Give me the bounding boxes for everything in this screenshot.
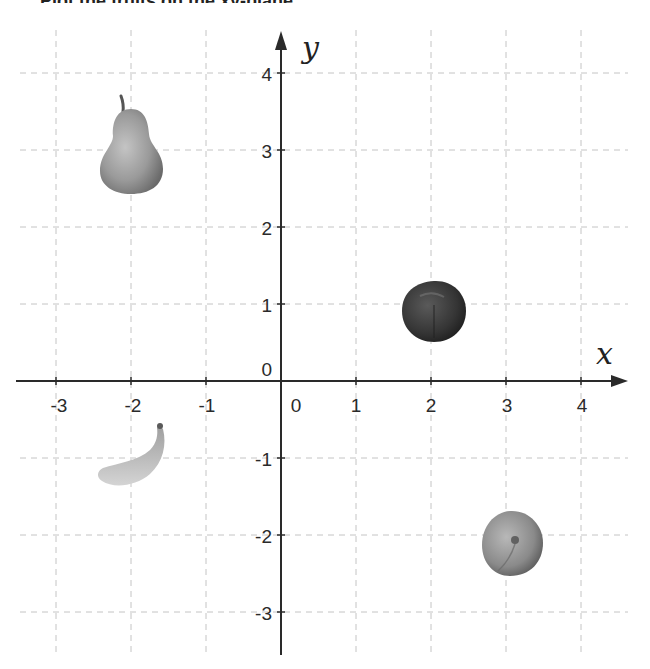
- y-tick-label: 2: [261, 218, 272, 239]
- y-tick-label: 4: [261, 64, 272, 85]
- x-axis-arrow-icon: [611, 375, 628, 387]
- x-tick-label: -1: [199, 395, 216, 416]
- banana-icon: [98, 423, 165, 485]
- peach-icon: [482, 511, 543, 576]
- x-tick-label: 3: [502, 395, 513, 416]
- origin-label: 0: [261, 359, 272, 380]
- y-tick-label: -1: [255, 449, 272, 470]
- y-tick-label: 3: [261, 141, 272, 162]
- x-tick-label: 0: [291, 395, 302, 416]
- x-tick-label: 1: [351, 395, 362, 416]
- plum-icon: [402, 281, 466, 342]
- y-axis-label: y: [300, 30, 320, 65]
- pear-icon: [100, 96, 163, 194]
- coordinate-plane: Plot the fruits on the xy-plane: [0, 0, 650, 669]
- y-axis-arrow-icon: [275, 31, 287, 50]
- y-tick-label: -3: [255, 603, 272, 624]
- x-tick-label: 4: [577, 395, 588, 416]
- x-axis-label: x: [596, 336, 613, 371]
- x-tick-label: 2: [426, 395, 437, 416]
- x-tick-label: -3: [51, 395, 68, 416]
- y-tick-label: 1: [261, 295, 272, 316]
- x-tick-label: -2: [125, 395, 142, 416]
- plane-svg: -3 -2 -1 0 1 2 3 4 4 3 2 1 0 -1 -2 -3 x …: [0, 0, 650, 669]
- cut-off-heading: Plot the fruits on the xy-plane: [40, 0, 293, 3]
- y-tick-label: -2: [255, 526, 272, 547]
- x-tick-labels: -3 -2 -1 0 1 2 3 4: [51, 395, 588, 416]
- y-tick-labels: 4 3 2 1 0 -1 -2 -3: [255, 64, 272, 624]
